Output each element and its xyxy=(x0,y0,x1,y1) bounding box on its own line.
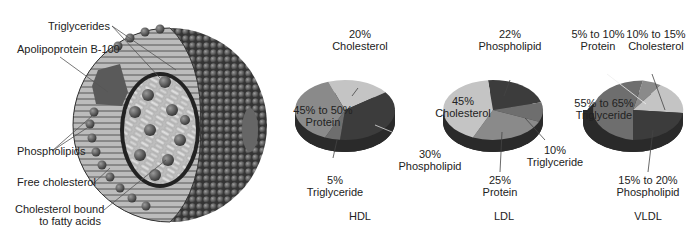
label-phospholipids: Phospholipids xyxy=(17,145,86,157)
vldl-protein-label: 5% to 10% Protein xyxy=(566,28,630,52)
vldl-title: VLDL xyxy=(628,210,668,222)
hdl-triglyceride-label: 5% Triglyceride xyxy=(300,174,370,198)
vldl-phospholipid-label: 15% to 20% Phospholipid xyxy=(612,174,684,198)
hdl-phospholipid-label: 30% Phospholipid xyxy=(395,148,465,172)
vldl-triglyceride-label: 55% to 65% Triglyceride xyxy=(568,97,640,121)
ldl-phospholipid-label: 22% Phospholipid xyxy=(475,28,545,52)
ldl-title: LDL xyxy=(484,210,524,222)
label-triglycerides: Triglycerides xyxy=(48,20,110,32)
hdl-cholesterol-label: 20% Cholesterol xyxy=(330,28,390,52)
label-bound-cholesterol: Cholesterol bound to fatty acids xyxy=(15,203,101,227)
hdl-protein-label: 45% to 50% Protein xyxy=(288,104,358,128)
label-apolipoprotein: Apolipoprotein B-100 xyxy=(17,43,120,55)
label-free-cholesterol: Free cholesterol xyxy=(17,176,96,188)
pie-vldl xyxy=(583,74,683,172)
ldl-cholesterol-label: 45% Cholesterol xyxy=(428,95,498,119)
hdl-title: HDL xyxy=(340,210,380,222)
vldl-cholesterol-label: 10% to 15% Cholesterol xyxy=(622,28,690,52)
ldl-triglyceride-label: 10% Triglyceride xyxy=(520,144,590,168)
ldl-protein-label: 25% Protein xyxy=(465,174,535,198)
